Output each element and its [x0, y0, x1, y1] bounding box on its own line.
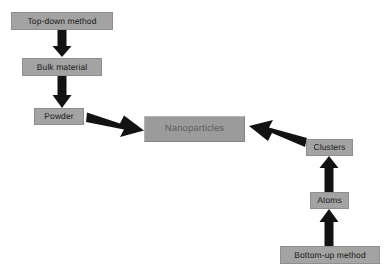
node-clusters[interactable]: Clusters	[306, 139, 353, 156]
arrow-top-down-to-bulk	[53, 29, 72, 57]
node-label: Top-down method	[27, 17, 96, 26]
node-label: Clusters	[314, 143, 346, 152]
node-atoms[interactable]: Atoms	[310, 192, 349, 209]
node-label: Bottom-up method	[294, 251, 366, 260]
arrow-powder-to-nanoparticles	[86, 113, 144, 138]
node-nanoparticles[interactable]: Nanoparticles	[144, 116, 245, 142]
node-top-down-method[interactable]: Top-down method	[11, 12, 113, 30]
node-bulk-material[interactable]: Bulk material	[22, 58, 102, 76]
arrow-bottom-up-to-atoms	[320, 209, 339, 246]
node-label: Bulk material	[37, 63, 87, 72]
arrow-bulk-to-powder	[53, 76, 72, 108]
diagram-canvas: Top-down method Bulk material Powder Nan…	[0, 0, 391, 274]
node-powder[interactable]: Powder	[34, 108, 84, 125]
node-label: Atoms	[317, 196, 342, 205]
node-bottom-up-method[interactable]: Bottom-up method	[280, 246, 380, 264]
node-label: Nanoparticles	[165, 124, 224, 134]
arrow-atoms-to-clusters	[320, 156, 339, 192]
node-label: Powder	[44, 112, 73, 121]
arrow-clusters-to-nanoparticles	[249, 120, 307, 147]
